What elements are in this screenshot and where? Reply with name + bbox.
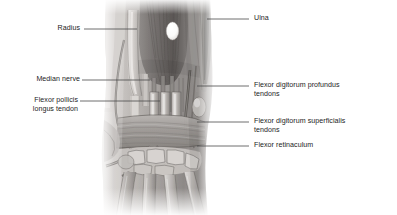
label-flexor-digitorum-superficialis-tendons: Flexor digitorum superficialis tendons [254, 117, 396, 135]
label-flexor-pollicis-longus-tendon: Flexor pollicis longus tendon [6, 96, 78, 114]
carpal-bone-row [118, 147, 202, 176]
flexor-digitorum-superficialis-tendons-shape [150, 92, 181, 118]
label-ulna: Ulna [254, 14, 394, 23]
anatomy-figure: Radius Ulna Median nerve Flexor pollicis… [0, 0, 397, 215]
label-median-nerve: Median nerve [6, 75, 80, 84]
label-radius: Radius [6, 24, 80, 33]
label-flexor-digitorum-profundus-tendons: Flexor digitorum profundus tendons [254, 81, 396, 99]
label-flexor-retinaculum: Flexor retinaculum [254, 141, 396, 150]
